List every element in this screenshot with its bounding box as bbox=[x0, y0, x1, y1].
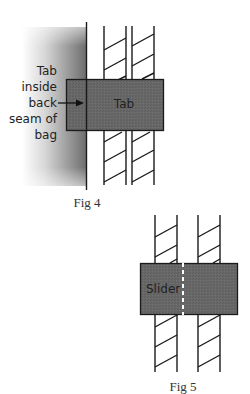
figure-caption: Fig 4 bbox=[73, 195, 101, 210]
annotation-line: inside bbox=[21, 80, 57, 94]
diagram-canvas: Tab Tab inside back seam of bag Fig 4 bbox=[0, 0, 250, 394]
tab-label: Tab bbox=[113, 97, 134, 111]
annotation-line: seam of bbox=[9, 112, 58, 126]
figure-4: Tab Tab inside back seam of bag Fig 4 bbox=[9, 22, 164, 210]
figure-caption: Fig 5 bbox=[169, 379, 196, 394]
figure-5: Slider Fig 5 bbox=[141, 215, 238, 394]
annotation-line: Tab bbox=[36, 64, 57, 78]
slider-label: Slider bbox=[146, 282, 180, 296]
annotation-line: bag bbox=[34, 128, 57, 142]
annotation-line: back bbox=[28, 96, 57, 110]
